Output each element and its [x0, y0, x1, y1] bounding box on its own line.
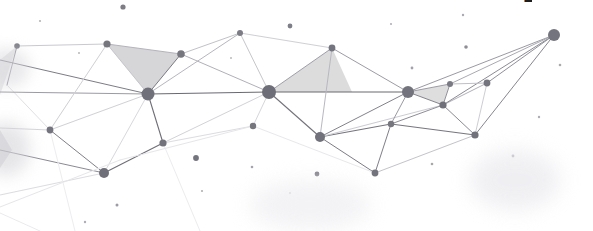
node-hub-far-right — [548, 29, 560, 41]
node-left-mid — [47, 127, 54, 134]
node-hub-center — [262, 85, 276, 99]
dot-mid-center — [411, 67, 414, 70]
node-upper-left — [103, 40, 110, 47]
node-hub-lower-left — [99, 168, 109, 178]
dot-bottom-mid — [84, 221, 86, 223]
dot-mid-low — [193, 155, 199, 161]
dot-center-tiny — [230, 57, 232, 59]
node-bottom-center — [372, 170, 379, 177]
dot-low-faint — [289, 192, 291, 194]
dot-upper-right — [464, 45, 468, 49]
dot-top-right — [288, 24, 293, 29]
clipped-text-glyph-label: P — [523, 0, 532, 2]
node-center-lower — [250, 123, 256, 129]
dot-upper-faint — [390, 23, 392, 25]
node-hub-right — [402, 86, 414, 98]
node-right-left-low — [388, 121, 394, 127]
network-graphic — [0, 0, 593, 231]
clipped-text-glyph: P — [523, 0, 532, 2]
dot-mid-right — [462, 14, 464, 16]
node-left-edge — [14, 43, 20, 49]
node-top-right — [329, 45, 336, 52]
dot-bottom-left — [116, 204, 119, 207]
node-hub-left — [142, 88, 155, 101]
node-upper-mid — [177, 50, 185, 58]
dot-far-bottom — [538, 116, 540, 118]
dot-low-right — [315, 172, 320, 177]
network-banner: P — [0, 0, 593, 231]
dot-left-upper — [39, 20, 41, 22]
node-mid-lower-center — [315, 132, 325, 142]
dot-right-bottom — [512, 155, 515, 158]
dot-low-center — [251, 166, 254, 169]
dot-right-far — [559, 64, 562, 67]
node-right-low — [471, 131, 478, 138]
dot-low-left — [201, 190, 203, 192]
node-top-center — [237, 30, 243, 36]
node-right-upper — [447, 81, 453, 87]
dot-top-left — [120, 4, 125, 9]
dot-left-dot — [78, 52, 80, 54]
node-right-outer — [484, 80, 491, 87]
dot-bottom-right — [431, 163, 434, 166]
node-right-inner — [439, 101, 446, 108]
node-center-low — [159, 139, 166, 146]
